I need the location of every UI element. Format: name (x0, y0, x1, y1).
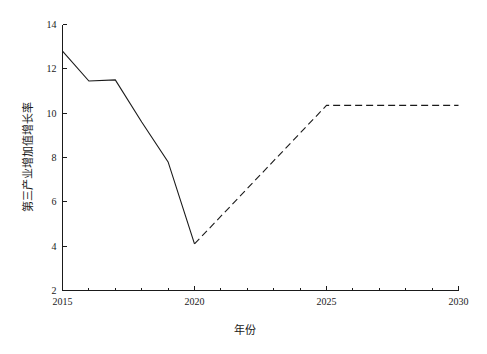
y-tick-label: 12 (47, 63, 57, 74)
y-tick-label: 4 (52, 241, 57, 252)
x-tick-label: 2020 (185, 296, 205, 307)
y-axis-tick-labels: 2468101214 (47, 19, 57, 296)
x-axis-major-ticks (63, 286, 459, 291)
axis-lines (63, 25, 459, 291)
x-tick-label: 2015 (53, 296, 73, 307)
x-axis-tick-labels: 2015202020252030 (53, 296, 469, 307)
axes-group (63, 25, 459, 291)
chart-figure: 2015202020252030 2468101214 年份 第三产业增加值增长… (0, 0, 487, 354)
data-series-group (63, 51, 459, 244)
y-tick-label: 6 (52, 196, 57, 207)
x-axis-title: 年份 (234, 323, 256, 336)
y-axis-major-ticks (63, 25, 67, 291)
x-tick-label: 2030 (449, 296, 469, 307)
y-axis-title: 第三产业增加值增长率 (21, 102, 34, 212)
series-line-0 (63, 51, 195, 244)
y-tick-label: 14 (47, 19, 57, 30)
y-tick-label: 2 (52, 285, 57, 296)
x-tick-label: 2025 (317, 296, 337, 307)
y-tick-label: 8 (52, 152, 57, 163)
line-chart-svg: 2015202020252030 2468101214 年份 第三产业增加值增长… (0, 0, 487, 354)
y-tick-label: 10 (47, 108, 57, 119)
series-line-1 (195, 105, 459, 244)
